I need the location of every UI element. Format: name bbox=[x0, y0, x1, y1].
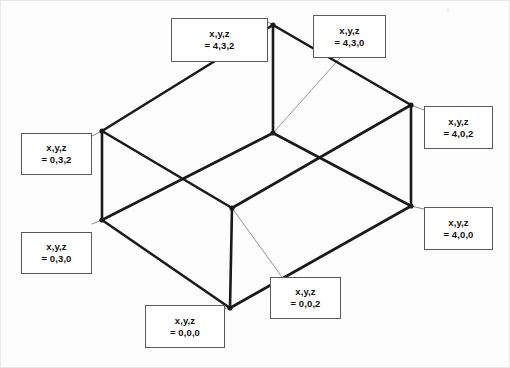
vertex-label-key: x,y,z bbox=[448, 116, 468, 128]
vertex-label-key: x,y,z bbox=[209, 28, 229, 40]
leader-line-0-0-2 bbox=[232, 208, 282, 277]
cube-vertex-dot-0-3-2 bbox=[99, 128, 104, 133]
vertex-label-0-3-2[interactable]: x,y,z = 0,3,2 bbox=[21, 133, 92, 175]
cube-edges-group bbox=[102, 25, 411, 308]
vertex-label-key: x,y,z bbox=[46, 142, 66, 154]
leader-lines-group bbox=[92, 22, 424, 308]
cube-vertex-dot-0-0-2 bbox=[229, 205, 234, 210]
vertex-label-4-0-2[interactable]: x,y,z = 4,0,2 bbox=[424, 106, 493, 149]
vertex-label-value: = 4,0,0 bbox=[443, 229, 473, 241]
vertex-label-0-3-0[interactable]: x,y,z = 0,3,0 bbox=[21, 232, 92, 274]
vertex-label-key: x,y,z bbox=[175, 315, 195, 327]
cube-edge-002-000 bbox=[230, 208, 232, 308]
vertex-label-value: = 0,3,0 bbox=[41, 253, 71, 265]
vertex-label-4-3-0[interactable]: x,y,z = 4,3,0 bbox=[313, 15, 386, 58]
vertex-label-key: x,y,z bbox=[46, 241, 66, 253]
cube-vertex-dot-4-3-0 bbox=[270, 130, 275, 135]
cube-vertex-dot-4-0-0 bbox=[408, 203, 413, 208]
vertex-label-value: = 0,0,2 bbox=[290, 298, 320, 310]
cube-vertex-dot-4-3-2 bbox=[270, 22, 275, 27]
vertex-label-value: = 4,3,2 bbox=[204, 40, 234, 52]
vertex-label-key: x,y,z bbox=[295, 286, 315, 298]
cube-vertex-dot-0-3-0 bbox=[99, 217, 104, 222]
vertex-label-key: x,y,z bbox=[448, 217, 468, 229]
cube-vertex-dots-group bbox=[99, 22, 413, 310]
vertex-label-key: x,y,z bbox=[339, 25, 359, 37]
vertex-label-0-0-0[interactable]: x,y,z = 0,0,0 bbox=[145, 305, 225, 348]
cube-coordinate-diagram: x,y,z = 4,3,2 x,y,z = 4,3,0 x,y,z = 4,0,… bbox=[0, 0, 510, 368]
cube-edge-000-030 bbox=[102, 220, 230, 308]
cube-vertex-dot-0-0-0 bbox=[227, 305, 232, 310]
vertex-label-value: = 4,3,0 bbox=[334, 37, 364, 49]
vertex-label-4-0-0[interactable]: x,y,z = 4,0,0 bbox=[424, 207, 493, 250]
cube-vertex-dot-4-0-2 bbox=[408, 102, 413, 107]
cube-edge-002-032 bbox=[102, 131, 232, 208]
vertex-label-value: = 0,0,0 bbox=[170, 327, 200, 339]
leader-line-4-3-0 bbox=[273, 58, 340, 133]
vertex-label-4-3-2[interactable]: x,y,z = 4,3,2 bbox=[171, 18, 268, 62]
vertex-label-0-0-2[interactable]: x,y,z = 0,0,2 bbox=[270, 277, 341, 319]
vertex-label-value: = 0,3,2 bbox=[41, 154, 71, 166]
vertex-label-value: = 4,0,2 bbox=[443, 128, 473, 140]
